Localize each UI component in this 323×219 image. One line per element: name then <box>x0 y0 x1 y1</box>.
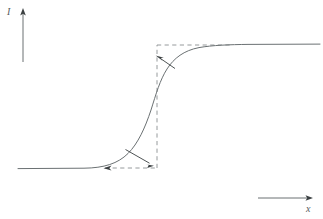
x-axis-group <box>258 195 313 201</box>
lower-deviation-arrow-shaft <box>126 150 150 164</box>
figure-canvas: I x <box>0 0 323 219</box>
position-axis-label: x <box>306 204 310 214</box>
smooth-sigmoid-curve <box>18 44 320 169</box>
y-axis-group <box>20 8 26 62</box>
lower-deviation-arrowhead <box>146 164 154 168</box>
current-axis-label: I <box>7 7 10 17</box>
figure-drawing <box>0 0 323 219</box>
sigmoid-path <box>18 44 320 169</box>
lower-deviation-arrow <box>126 150 155 168</box>
